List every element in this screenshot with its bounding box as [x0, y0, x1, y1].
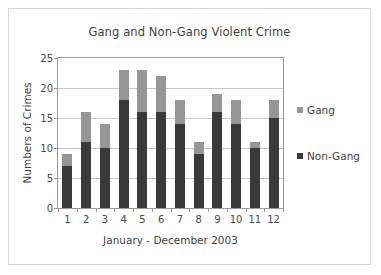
bar-column[interactable] — [264, 58, 283, 208]
bar-stack[interactable] — [250, 142, 260, 208]
bar-segment-non-gang[interactable] — [194, 154, 204, 208]
bar-column[interactable] — [171, 58, 190, 208]
bar-segment-non-gang[interactable] — [119, 100, 129, 208]
bar-stack[interactable] — [81, 112, 91, 208]
chart-frame: Gang and Non-Gang Violent Crime Numbers … — [8, 8, 371, 265]
x-axis-title: January - December 2003 — [57, 234, 284, 246]
x-tick-label: 2 — [83, 214, 89, 225]
legend-entry-non-gang[interactable]: Non-Gang — [297, 150, 367, 162]
bar-column[interactable] — [246, 58, 265, 208]
chart-title: Gang and Non-Gang Violent Crime — [9, 25, 370, 39]
y-tick-label: 0 — [47, 203, 53, 214]
x-tick-label: 12 — [267, 214, 280, 225]
x-tick-label: 9 — [214, 214, 220, 225]
legend-entry-gang[interactable]: Gang — [297, 104, 367, 116]
x-tick-mark — [283, 208, 284, 212]
y-tick-label: 10 — [40, 143, 53, 154]
bar-segment-gang[interactable] — [119, 70, 129, 100]
bar-segment-gang[interactable] — [100, 124, 110, 148]
bar-stack[interactable] — [212, 94, 222, 208]
x-tick-label: 3 — [102, 214, 108, 225]
bar-column[interactable] — [227, 58, 246, 208]
bar-stack[interactable] — [156, 76, 166, 208]
bar-column[interactable] — [152, 58, 171, 208]
plot-area: 0510152025123456789101112 — [57, 57, 284, 209]
bar-segment-gang[interactable] — [231, 100, 241, 124]
bar-stack[interactable] — [269, 100, 279, 208]
chart-legend: GangNon-Gang — [297, 104, 367, 196]
bar-segment-gang[interactable] — [212, 94, 222, 112]
x-tick-label: 6 — [158, 214, 164, 225]
bar-column[interactable] — [96, 58, 115, 208]
bar-stack[interactable] — [175, 100, 185, 208]
bar-segment-gang[interactable] — [175, 100, 185, 124]
bar-segment-non-gang[interactable] — [212, 112, 222, 208]
x-tick-label: 11 — [249, 214, 262, 225]
bar-column[interactable] — [58, 58, 77, 208]
bar-column[interactable] — [77, 58, 96, 208]
bar-stack[interactable] — [194, 142, 204, 208]
bar-segment-gang[interactable] — [194, 142, 204, 154]
bar-segment-non-gang[interactable] — [100, 148, 110, 208]
x-tick-mark — [227, 208, 228, 212]
y-tick-label: 5 — [47, 173, 53, 184]
bar-stack[interactable] — [100, 124, 110, 208]
y-tick-label: 15 — [40, 113, 53, 124]
bar-segment-non-gang[interactable] — [175, 124, 185, 208]
x-tick-mark — [171, 208, 172, 212]
bar-stack[interactable] — [119, 70, 129, 208]
legend-swatch-icon — [297, 153, 303, 159]
bar-segment-non-gang[interactable] — [269, 118, 279, 208]
bar-segment-gang[interactable] — [156, 76, 166, 112]
bar-segment-gang[interactable] — [81, 112, 91, 142]
x-tick-label: 7 — [177, 214, 183, 225]
y-axis-title: Numbers of Crimes — [19, 57, 35, 209]
x-tick-mark — [96, 208, 97, 212]
bar-stack[interactable] — [62, 154, 72, 208]
bar-column[interactable] — [133, 58, 152, 208]
x-tick-mark — [77, 208, 78, 212]
bar-stack[interactable] — [231, 100, 241, 208]
x-tick-label: 10 — [230, 214, 243, 225]
legend-label: Gang — [307, 104, 335, 116]
bar-segment-gang[interactable] — [137, 70, 147, 112]
bar-segment-non-gang[interactable] — [137, 112, 147, 208]
bar-stack[interactable] — [137, 70, 147, 208]
x-tick-label: 8 — [195, 214, 201, 225]
x-tick-label: 5 — [139, 214, 145, 225]
bar-segment-gang[interactable] — [62, 154, 72, 166]
x-tick-label: 1 — [64, 214, 70, 225]
bar-column[interactable] — [114, 58, 133, 208]
y-tick-label: 20 — [40, 83, 53, 94]
x-tick-mark — [264, 208, 265, 212]
bar-segment-non-gang[interactable] — [250, 148, 260, 208]
x-tick-label: 4 — [120, 214, 126, 225]
bar-segment-gang[interactable] — [269, 100, 279, 118]
bar-column[interactable] — [189, 58, 208, 208]
legend-swatch-icon — [297, 107, 303, 113]
x-tick-mark — [189, 208, 190, 212]
bar-segment-non-gang[interactable] — [156, 112, 166, 208]
bar-segment-non-gang[interactable] — [81, 142, 91, 208]
bar-segment-non-gang[interactable] — [62, 166, 72, 208]
x-tick-mark — [152, 208, 153, 212]
y-axis-title-label: Numbers of Crimes — [21, 82, 33, 183]
y-tick-label: 25 — [40, 53, 53, 64]
x-tick-mark — [208, 208, 209, 212]
bar-column[interactable] — [208, 58, 227, 208]
x-tick-mark — [114, 208, 115, 212]
bar-segment-non-gang[interactable] — [231, 124, 241, 208]
legend-label: Non-Gang — [307, 150, 360, 162]
x-tick-mark — [58, 208, 59, 212]
x-tick-mark — [246, 208, 247, 212]
x-tick-mark — [133, 208, 134, 212]
